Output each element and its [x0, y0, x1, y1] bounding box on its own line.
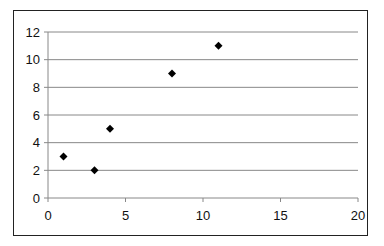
data-point-diamond-icon — [60, 153, 68, 161]
x-tick-label: 0 — [44, 208, 51, 223]
x-tick-label: 20 — [351, 208, 365, 223]
data-point-diamond-icon — [91, 166, 99, 174]
x-tick-label: 15 — [273, 208, 287, 223]
y-tick-label: 8 — [33, 80, 40, 95]
y-tick-label: 4 — [33, 135, 40, 150]
data-point-diamond-icon — [215, 42, 223, 50]
y-tick-label: 12 — [26, 25, 40, 40]
x-tick-label: 10 — [196, 208, 210, 223]
scatter-chart: 02468101205101520 — [0, 0, 384, 246]
data-point-diamond-icon — [106, 125, 114, 133]
x-tick-label: 5 — [122, 208, 129, 223]
y-tick-label: 6 — [33, 108, 40, 123]
y-tick-label: 0 — [33, 191, 40, 206]
data-point-diamond-icon — [168, 70, 176, 78]
y-tick-label: 10 — [26, 52, 40, 67]
y-tick-label: 2 — [33, 163, 40, 178]
